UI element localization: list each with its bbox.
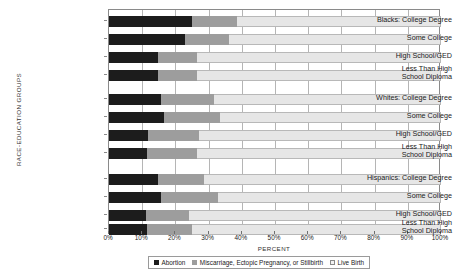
legend-item: Live Birth [330, 259, 364, 266]
y-axis-tick-label: Some College [351, 112, 455, 120]
x-axis-tick-label: 40% [226, 234, 256, 241]
x-axis-tick-label: 50% [259, 234, 289, 241]
bar-segment-loss [185, 34, 228, 45]
bar-segment-abortion [109, 130, 148, 141]
y-axis-tick-label: High School/GED [351, 130, 455, 138]
bar-segment-loss [147, 148, 197, 159]
y-axis-tick-label: Whites: College Degree [351, 94, 455, 102]
y-axis-tick-label: Less Than High School Diploma [351, 65, 455, 82]
bar-segment-loss [161, 94, 214, 105]
bar-segment-abortion [109, 192, 161, 203]
y-axis-tick-label: Some College [351, 34, 455, 42]
bar-segment-abortion [109, 94, 161, 105]
y-axis-tick-label: Less Than High School Diploma [351, 219, 455, 236]
bar-segment-loss [158, 70, 197, 81]
y-axis-tick [104, 134, 107, 135]
chart-legend: AbortionMiscarriage, Ectopic Pregnancy, … [148, 256, 370, 269]
y-axis-tick [104, 214, 107, 215]
legend-label: Live Birth [337, 259, 364, 266]
y-axis-tick-label: High School/GED [351, 52, 455, 60]
x-axis-tick-label: 30% [193, 234, 223, 241]
bar-segment-loss [164, 112, 220, 123]
bar-segment-abortion [109, 148, 147, 159]
legend-label: Miscarriage, Ectopic Pregnancy, or Still… [200, 259, 323, 266]
bar-segment-abortion [109, 210, 146, 221]
y-axis-tick [104, 20, 107, 21]
y-axis-tick [104, 178, 107, 179]
legend-swatch-icon [192, 260, 197, 265]
x-axis-tick-label: 20% [159, 234, 189, 241]
bar-segment-loss [161, 192, 218, 203]
legend-label: Abortion [162, 259, 186, 266]
x-axis-tick-label: 60% [292, 234, 322, 241]
bar-segment-abortion [109, 34, 185, 45]
bar-segment-abortion [109, 70, 158, 81]
y-axis-tick [104, 38, 107, 39]
y-axis-tick-label: Blacks: College Degree [351, 16, 455, 24]
bar-segment-loss [148, 130, 199, 141]
legend-swatch-icon [330, 260, 335, 265]
y-axis-tick [104, 116, 107, 117]
bar-segment-abortion [109, 52, 158, 63]
bar-segment-abortion [109, 16, 192, 27]
y-axis-tick [104, 74, 107, 75]
bar-segment-loss [158, 174, 204, 185]
bar-segment-abortion [109, 174, 158, 185]
y-axis-title: RACE-EDUCATION GROUPS [15, 50, 22, 190]
legend-swatch-icon [154, 260, 159, 265]
x-axis-tick-label: 10% [126, 234, 156, 241]
x-axis-tick-label: 0% [93, 234, 123, 241]
legend-item: Abortion [154, 259, 185, 266]
y-axis-tick-label: Less Than High School Diploma [351, 143, 455, 160]
y-axis-tick [104, 98, 107, 99]
y-axis-tick-label: Hispanics: College Degree [351, 174, 455, 182]
bar-segment-abortion [109, 112, 164, 123]
bar-segment-loss [158, 52, 197, 63]
y-axis-tick [104, 228, 107, 229]
y-axis-tick-label: Some College [351, 192, 455, 200]
bar-segment-loss [192, 16, 237, 27]
stacked-bar-chart: RACE-EDUCATION GROUPS PERCENT AbortionMi… [0, 0, 455, 277]
legend-item: Miscarriage, Ectopic Pregnancy, or Still… [192, 259, 323, 266]
y-axis-tick [104, 152, 107, 153]
x-axis-title: PERCENT [108, 245, 440, 252]
y-axis-tick [104, 196, 107, 197]
bar-segment-loss [146, 210, 189, 221]
y-axis-tick [104, 56, 107, 57]
